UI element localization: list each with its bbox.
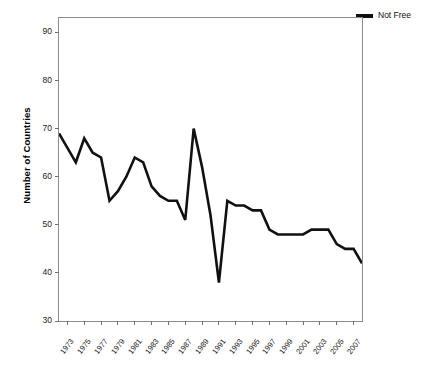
- y-tick-label: 40: [33, 267, 52, 278]
- y-tick-mark: [55, 128, 59, 129]
- x-tick-mark: [134, 321, 135, 325]
- x-tick-mark: [67, 321, 68, 325]
- plot-area: 30405060708090 1973197519771979198119831…: [58, 17, 363, 322]
- series-line-not-free: [59, 129, 362, 283]
- x-tick-mark: [286, 321, 287, 325]
- y-tick-label: 90: [33, 26, 52, 37]
- y-tick-mark: [55, 224, 59, 225]
- y-tick-mark: [55, 176, 59, 177]
- x-tick-mark: [336, 321, 337, 325]
- x-tick-mark: [218, 321, 219, 325]
- x-tick-mark: [117, 321, 118, 325]
- x-tick-mark: [84, 321, 85, 325]
- y-tick-label: 80: [33, 75, 52, 86]
- y-axis-label: Number of Countries: [21, 86, 32, 226]
- series-layer: [59, 18, 362, 321]
- y-tick-label: 30: [33, 315, 52, 326]
- y-tick-mark: [55, 321, 59, 322]
- x-tick-mark: [151, 321, 152, 325]
- x-tick-mark: [235, 321, 236, 325]
- y-tick-label: 70: [33, 123, 52, 134]
- x-tick-mark: [168, 321, 169, 325]
- x-tick-mark: [101, 321, 102, 325]
- x-tick-mark: [252, 321, 253, 325]
- y-tick-label: 60: [33, 171, 52, 182]
- y-tick-mark: [55, 272, 59, 273]
- x-tick-mark: [269, 321, 270, 325]
- chart-container: Not Free Number of Countries 30405060708…: [0, 0, 424, 373]
- x-tick-mark: [185, 321, 186, 325]
- x-tick-mark: [202, 321, 203, 325]
- x-tick-mark: [319, 321, 320, 325]
- legend-label-not-free: Not Free: [378, 11, 411, 20]
- y-tick-mark: [55, 32, 59, 33]
- chart-legend: Not Free: [356, 11, 411, 20]
- y-tick-label: 50: [33, 219, 52, 230]
- x-tick-mark: [303, 321, 304, 325]
- x-tick-mark: [353, 321, 354, 325]
- y-tick-mark: [55, 80, 59, 81]
